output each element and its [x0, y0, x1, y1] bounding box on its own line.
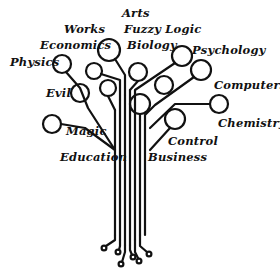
label-biology: Biology [127, 40, 177, 52]
label-magic: Magic [66, 126, 107, 138]
tree-diagram: Arts Works Fuzzy Logic Economics Biology… [0, 0, 280, 268]
label-chemistry: Chemistry [218, 118, 280, 130]
roots [102, 235, 152, 266]
label-arts: Arts [122, 8, 150, 20]
label-computers: Computers [214, 80, 280, 92]
label-evil: Evil [46, 88, 71, 100]
label-works: Works [64, 24, 105, 36]
label-fuzzy-logic: Fuzzy Logic [124, 24, 201, 36]
label-education: Education [60, 152, 127, 164]
label-economics: Economics [40, 40, 111, 52]
label-control: Control [168, 136, 218, 148]
label-psychology: Psychology [192, 45, 266, 57]
label-business: Business [148, 152, 207, 164]
label-physics: Physics [10, 57, 59, 69]
